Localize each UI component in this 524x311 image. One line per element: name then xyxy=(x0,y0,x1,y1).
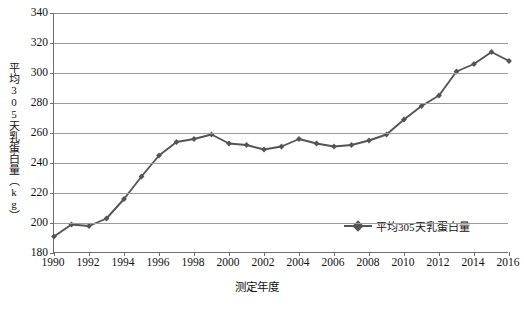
y-tick-label: 280 xyxy=(14,97,48,109)
y-tick-label: 300 xyxy=(14,67,48,79)
y-tick-label: 220 xyxy=(14,187,48,199)
x-axis-tick-labels: 1990199219941996199820002002200420062008… xyxy=(53,0,508,311)
y-tick-label: 240 xyxy=(14,157,48,169)
y-tick-label: 320 xyxy=(14,37,48,49)
x-axis-title: 测定年度 xyxy=(0,278,514,294)
y-tick-label: 200 xyxy=(14,217,48,229)
x-tick-label: 2016 xyxy=(485,256,524,268)
y-tick-label: 340 xyxy=(14,7,48,19)
y-tick-label: 260 xyxy=(14,127,48,139)
